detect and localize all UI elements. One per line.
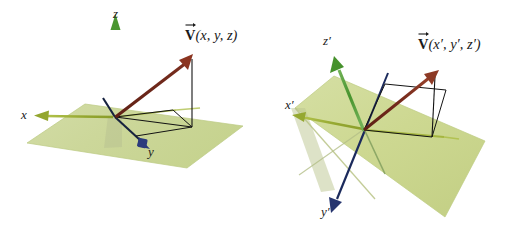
x-axis-far-continuation (176, 108, 200, 110)
vector-V-label: V (x, y, z) (185, 28, 237, 43)
vector-arrow-accent-icon (185, 21, 196, 27)
x-prime-axis-label: x′ (285, 98, 294, 111)
vector-coordinate-frames-figure: z x y V (x, y, z) (0, 0, 519, 231)
vector-args-text: (x′, y′, z′) (428, 36, 480, 52)
right-diagram-panel: z′ x′ y′ V (x′, y′, z′) (259, 0, 519, 231)
vector-symbol-text: V (418, 36, 428, 52)
z-axis-label: z (113, 7, 118, 20)
y-prime-axis-arrowhead (329, 197, 342, 213)
x-axis-shaft (44, 116, 113, 117)
vector-arrow-accent-icon (418, 30, 429, 36)
xy-prime-plane (295, 76, 485, 217)
y-axis-arrowhead-block (137, 138, 148, 149)
right-diagram-svg (259, 0, 519, 231)
z-prime-axis-label: z′ (323, 34, 331, 47)
vector-V-prime-arrowhead (424, 70, 439, 85)
vector-args-text: (x, y, z) (195, 27, 237, 43)
left-diagram-panel: z x y V (x, y, z) (0, 0, 260, 231)
vector-bold-V-prime: V (418, 37, 428, 52)
z-prime-axis-arrowhead (330, 56, 344, 73)
vector-bold-V: V (185, 28, 195, 43)
y-axis-label: y (148, 145, 154, 158)
vector-V-prime-label: V (x′, y′, z′) (418, 37, 481, 52)
x-axis-label: x (21, 108, 27, 121)
vector-symbol-text: V (185, 27, 195, 43)
vector-V-shaft (116, 63, 187, 117)
x-axis-arrowhead (34, 111, 49, 122)
y-prime-axis-label: y′ (321, 205, 330, 218)
